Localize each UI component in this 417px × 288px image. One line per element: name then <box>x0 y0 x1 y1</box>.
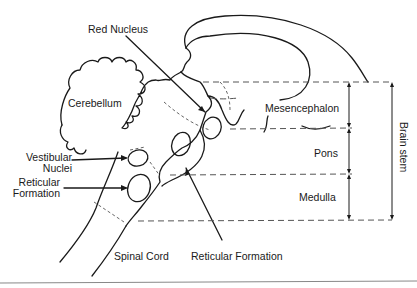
diagram-drawing <box>0 0 417 288</box>
mes-arrow-bottom <box>347 123 351 128</box>
mesencephalon-leader <box>264 116 268 132</box>
vestibular-nuclei-leader <box>72 158 126 160</box>
reticular-formation-lower-oval <box>124 171 154 205</box>
cerebrum-arc-outer <box>185 15 368 82</box>
med-arrow-top <box>347 174 351 179</box>
spinal-dashed <box>94 202 124 222</box>
label-reticular-formation-bottom: Reticular Formation <box>191 250 283 262</box>
pons-arrow-bottom <box>347 169 351 174</box>
label-pons: Pons <box>314 147 338 159</box>
label-reticular-formation-left-line2: Formation <box>8 187 60 199</box>
midbrain-dashed <box>220 82 230 110</box>
red-nucleus-leader <box>126 36 205 112</box>
mes-pons-line <box>230 128 352 129</box>
cerebellum-lower <box>60 125 86 154</box>
label-mesencephalon: Mesencephalon <box>265 102 339 114</box>
reticular-formation-upper-oval <box>168 130 193 159</box>
med-arrow-bottom <box>347 215 351 220</box>
pons-bulge <box>208 96 244 125</box>
reticular-formation-bottom-leader <box>186 168 222 240</box>
pons-arrow-top <box>347 128 351 133</box>
pons-front <box>162 130 204 186</box>
brain-stem-diagram: Red Nucleus Cerebellum Mesencephalon Pon… <box>0 0 417 288</box>
cerebellum-outline <box>61 58 181 129</box>
label-brain-stem: Brain stem <box>398 122 410 172</box>
pons-medulla-line <box>170 174 352 175</box>
pons-dashed <box>150 162 160 176</box>
label-vestibular-nuclei-line2: Nuclei <box>22 162 72 174</box>
bs-arrow-top <box>390 82 394 87</box>
mes-arrow-top <box>347 82 351 87</box>
vestibular-nuclei-arrowhead <box>121 155 128 161</box>
bottom-rule <box>0 281 417 283</box>
label-medulla: Medulla <box>299 191 336 203</box>
vestibular-nuclei-oval <box>126 148 149 169</box>
cerebrum-arc-stem <box>181 48 191 72</box>
bottom-boundary-dashed <box>138 220 392 221</box>
mesencephalon-pons-boundary-dashed <box>210 98 240 99</box>
label-cerebellum: Cerebellum <box>68 97 122 109</box>
label-red-nucleus: Red Nucleus <box>88 23 148 35</box>
bs-arrow-bottom <box>390 215 394 220</box>
label-spinal-cord: Spinal Cord <box>114 250 169 262</box>
